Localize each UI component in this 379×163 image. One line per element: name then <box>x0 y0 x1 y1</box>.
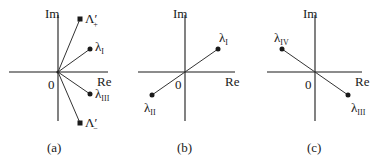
lambda-I-marker <box>88 47 93 52</box>
caption-b: (b) <box>177 140 192 155</box>
lambda-IV-label: λIV <box>274 30 289 47</box>
lambda-II-marker <box>150 93 155 98</box>
panel-c: Im Re 0 λIV λIII (c) <box>267 6 370 155</box>
im-label: Im <box>173 6 187 21</box>
panel-b: Im Re 0 λI λII (b) <box>138 6 240 155</box>
lambda-I-label: λI <box>219 30 228 47</box>
lambda-plus-prime-label: Λ′+ <box>85 11 98 29</box>
im-label: Im <box>45 6 59 21</box>
lambda-III-label: λIII <box>351 100 366 117</box>
origin-label: 0 <box>305 77 312 92</box>
im-label: Im <box>303 6 317 21</box>
panel-a: Im Re 0 Λ′+ λI λIII Λ′− (a) <box>9 6 112 155</box>
eigenvalue-diagrams: Im Re 0 Λ′+ λI λIII Λ′− (a) Im Re 0 λI λ… <box>0 0 379 163</box>
lambda-III-marker <box>346 93 351 98</box>
origin-label: 0 <box>175 77 182 92</box>
lambda-III-marker <box>88 92 93 97</box>
lambda-II-label: λII <box>144 100 156 117</box>
re-label: Re <box>355 74 370 89</box>
caption-c: (c) <box>307 140 321 155</box>
lambda-I-label: λI <box>95 39 104 56</box>
origin-label: 0 <box>48 77 55 92</box>
lambda-minus-prime-label: Λ′− <box>85 115 98 133</box>
lambda-I-marker <box>216 47 221 52</box>
lambda-plus-prime-marker <box>78 17 83 22</box>
caption-a: (a) <box>47 140 61 155</box>
lambda-minus-prime-marker <box>78 121 83 126</box>
lambda-IV-marker <box>280 47 285 52</box>
re-label: Re <box>225 74 240 89</box>
